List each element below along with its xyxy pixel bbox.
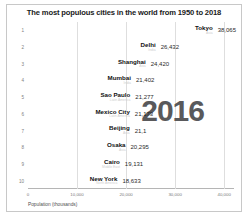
bar-inline-labels: CairoMiddle East xyxy=(102,157,122,171)
bar-inline-labels: TokyoAsia xyxy=(195,23,215,37)
rank-label: 6 xyxy=(2,111,24,116)
bar-inline-labels: ShanghaiAsia xyxy=(118,57,148,71)
x-tick-label: 0 xyxy=(27,192,29,197)
bar-row: New YorkNorth America xyxy=(28,174,119,188)
rank-label: 2 xyxy=(2,45,24,50)
bar-row: MumbaiIndia xyxy=(28,73,133,87)
chart-screenshot: The most populous cities in the world fr… xyxy=(0,0,248,218)
x-axis-line xyxy=(28,188,234,189)
x-tick-label: 10,000 xyxy=(70,192,83,197)
bar-region-name: Middle East xyxy=(102,166,120,169)
bar-value-label: 18,633 xyxy=(119,178,140,184)
bar-region-name: Asia xyxy=(123,132,130,135)
bar-row: DelhiIndia xyxy=(28,40,158,54)
bar-value-label: 26,432 xyxy=(158,44,179,50)
gridline xyxy=(224,22,225,189)
bar-region-name: Asia xyxy=(139,65,146,68)
rank-label: 10 xyxy=(2,178,24,183)
bar-region-name: Latin America xyxy=(110,99,131,102)
bar-inline-labels: OsakaAsia xyxy=(107,140,128,154)
bar-row: Sao PauloLatin America xyxy=(28,90,132,104)
bar-row: BeijingAsia xyxy=(28,124,132,138)
rank-label: 9 xyxy=(2,161,24,166)
bar-region-name: India xyxy=(124,82,131,85)
rank-label: 7 xyxy=(2,128,24,133)
bar-region-name: Asia xyxy=(119,149,126,152)
bar-value-label: 20,295 xyxy=(128,144,149,150)
bar-row: CairoMiddle East xyxy=(28,157,122,171)
bar-region-name: Latin America xyxy=(109,115,130,118)
bar-inline-labels: DelhiIndia xyxy=(141,40,158,54)
bar-value-label: 21,402 xyxy=(133,77,154,83)
x-tick-label: 20,000 xyxy=(119,192,132,197)
bar-row: ShanghaiAsia xyxy=(28,57,148,71)
rank-label: 4 xyxy=(2,78,24,83)
rank-label: 1 xyxy=(2,28,24,33)
bar-region-name: North America xyxy=(96,182,117,185)
chart-title: The most populous cities in the world fr… xyxy=(0,8,248,17)
rank-label: 8 xyxy=(2,145,24,150)
bar-value-label: 38,065 xyxy=(215,27,236,33)
x-axis-label: Population (thousands) xyxy=(28,202,77,207)
bar-inline-labels: Mexico CityLatin America xyxy=(95,107,131,121)
x-tick-label: 40,000 xyxy=(217,192,230,197)
bar-inline-labels: MumbaiIndia xyxy=(108,73,133,87)
bar-row: OsakaAsia xyxy=(28,140,128,154)
bar-inline-labels: BeijingAsia xyxy=(109,124,132,138)
bar-value-label: 21,1 xyxy=(132,128,147,134)
bar-value-label: 21,277 xyxy=(132,94,153,100)
bar-region-name: Asia xyxy=(206,32,213,35)
bar-inline-labels: Sao PauloLatin America xyxy=(100,90,132,104)
bar-row: Mexico CityLatin America xyxy=(28,107,132,121)
bar-value-label: 21,173 xyxy=(132,111,153,117)
bar-inline-labels: New YorkNorth America xyxy=(90,174,120,188)
x-tick-label: 30,000 xyxy=(168,192,181,197)
bar-row: TokyoAsia xyxy=(28,23,215,37)
rank-label: 3 xyxy=(2,61,24,66)
rank-label: 5 xyxy=(2,95,24,100)
bar-region-name: India xyxy=(148,49,155,52)
bar-value-label: 19,131 xyxy=(122,161,143,167)
bar-value-label: 24,420 xyxy=(148,61,169,67)
